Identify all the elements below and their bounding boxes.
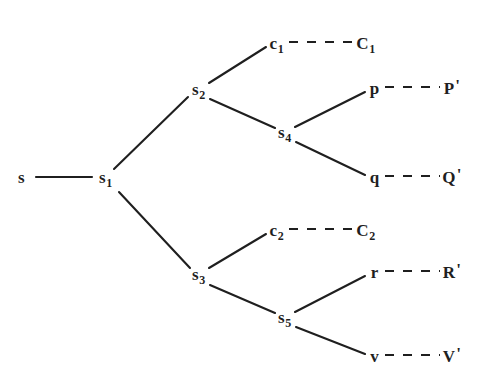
s4-to-q xyxy=(296,142,365,175)
node-c1: c1 xyxy=(270,32,285,55)
node-root: s xyxy=(18,166,26,189)
node-root-base: s xyxy=(18,168,25,187)
node-C2: C2 xyxy=(356,219,376,242)
node-v: v xyxy=(370,345,380,368)
node-s2: s2 xyxy=(192,78,206,101)
node-q: q xyxy=(370,166,381,189)
s2-to-s4 xyxy=(210,99,275,128)
s5-to-v xyxy=(296,327,365,354)
node-r-base: r xyxy=(371,263,379,282)
node-C2-base: C xyxy=(356,221,368,240)
node-p: p xyxy=(370,77,381,100)
node-s3-base: s xyxy=(192,265,199,284)
node-C2-subscript: 2 xyxy=(369,230,375,244)
node-s2-subscript: 2 xyxy=(199,89,205,103)
node-c2-subscript: 2 xyxy=(278,230,284,244)
s5-to-r xyxy=(295,276,365,312)
node-R-prime-base: R xyxy=(443,263,455,282)
edge-layer xyxy=(0,0,490,388)
node-s4: s4 xyxy=(278,121,292,144)
node-s5-base: s xyxy=(278,308,285,327)
node-V-prime-base: V xyxy=(443,347,455,366)
node-s4-base: s xyxy=(278,123,285,142)
s4-to-p xyxy=(295,92,365,127)
node-Q-prime-base: Q xyxy=(442,168,455,187)
node-V-prime: V' xyxy=(443,345,461,368)
s1-to-s3 xyxy=(119,192,190,268)
node-P-prime-mark: ' xyxy=(455,76,460,95)
node-q-base: q xyxy=(370,168,380,187)
node-c1-base: c xyxy=(270,34,278,53)
node-s1: s1 xyxy=(99,166,113,189)
node-C1: C1 xyxy=(356,32,376,55)
node-P-prime: P' xyxy=(444,77,461,100)
s3-to-s5 xyxy=(210,285,275,313)
node-s1-subscript: 1 xyxy=(106,177,112,191)
s1-to-s2 xyxy=(114,97,188,169)
node-s5: s5 xyxy=(278,306,292,329)
node-c2: c2 xyxy=(270,219,285,242)
node-v-base: v xyxy=(370,347,379,366)
node-R-prime: R' xyxy=(443,261,461,284)
node-s5-subscript: 5 xyxy=(285,317,291,331)
node-s3: s3 xyxy=(192,263,206,286)
node-s3-subscript: 3 xyxy=(199,274,205,288)
node-Q-prime: Q' xyxy=(442,166,461,189)
node-c1-subscript: 1 xyxy=(278,43,284,57)
node-s1-base: s xyxy=(99,168,106,187)
s3-to-c2 xyxy=(209,234,266,268)
node-V-prime-mark: ' xyxy=(456,344,461,363)
node-r: r xyxy=(371,261,380,284)
node-c2-base: c xyxy=(270,221,278,240)
node-C1-subscript: 1 xyxy=(369,43,375,57)
node-C1-base: C xyxy=(356,34,368,53)
node-R-prime-mark: ' xyxy=(456,260,461,279)
node-s4-subscript: 4 xyxy=(285,132,291,146)
s2-to-c1 xyxy=(209,47,266,83)
node-Q-prime-mark: ' xyxy=(457,165,462,184)
dashed-edge-group xyxy=(289,42,440,355)
node-P-prime-base: P xyxy=(444,79,455,98)
node-s2-base: s xyxy=(192,80,199,99)
node-p-base: p xyxy=(370,79,380,98)
tree-diagram: s s1 s2 s3 s4 s5 c1 C1 c2 C2 p P' q Q' r xyxy=(0,0,490,388)
